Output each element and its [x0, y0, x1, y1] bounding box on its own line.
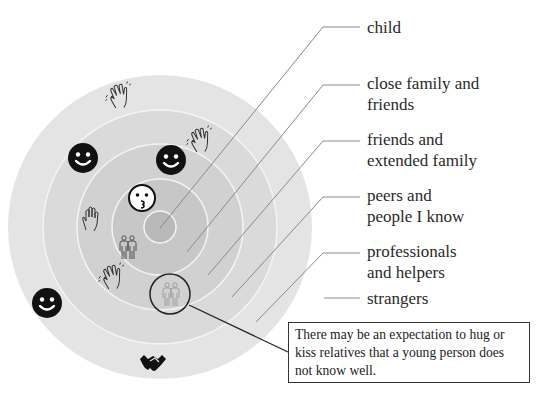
smiley-face-icon — [32, 288, 62, 318]
label-friends-extended-family: friends and extended family — [367, 129, 477, 171]
smiley-face-icon — [156, 145, 186, 175]
label-child: child — [367, 17, 401, 38]
label-professionals: professionals and helpers — [367, 241, 457, 283]
label-strangers: strangers — [367, 288, 428, 309]
callout-box: There may be an expectation to hug or ki… — [288, 322, 530, 383]
rings — [8, 75, 312, 379]
label-peers: peers and people I know — [367, 185, 464, 227]
kiss-face-icon — [129, 185, 155, 211]
smiley-face-icon — [68, 143, 98, 173]
ring-child — [144, 211, 176, 243]
callout-text: There may be an expectation to hug or ki… — [295, 327, 505, 378]
label-close-family: close family and friends — [367, 73, 479, 115]
